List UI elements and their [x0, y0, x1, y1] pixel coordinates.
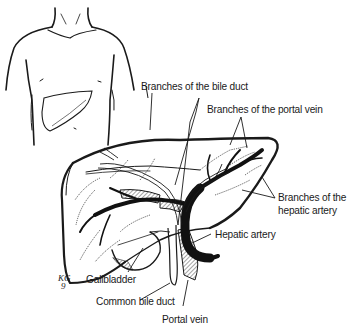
label-hepatic-artery-branches-2: hepatic artery [278, 204, 337, 217]
torso-liver [42, 91, 92, 131]
signature-line-2: 9 [58, 282, 71, 290]
label-hepatic-artery-branches-1: Branches of the [278, 191, 346, 204]
label-gallbladder: Gallbladder [86, 273, 136, 286]
label-common-bile-duct: Common bile duct [96, 295, 175, 308]
label-bile-duct-branches: Branches of the bile duct [141, 80, 248, 93]
bile-duct-branches-shape [98, 148, 230, 225]
label-portal-vein: Portal vein [162, 313, 208, 326]
artist-signature: KG 9 [58, 274, 71, 290]
label-hepatic-artery: Hepatic artery [215, 228, 276, 241]
torso-outline [6, 8, 134, 145]
gallbladder-shape [112, 232, 160, 270]
label-portal-vein-branches: Branches of the portal vein [207, 103, 323, 116]
liver-diagram: Branches of the bile duct Branches of th… [0, 0, 354, 327]
diagram-drawing [0, 0, 354, 327]
